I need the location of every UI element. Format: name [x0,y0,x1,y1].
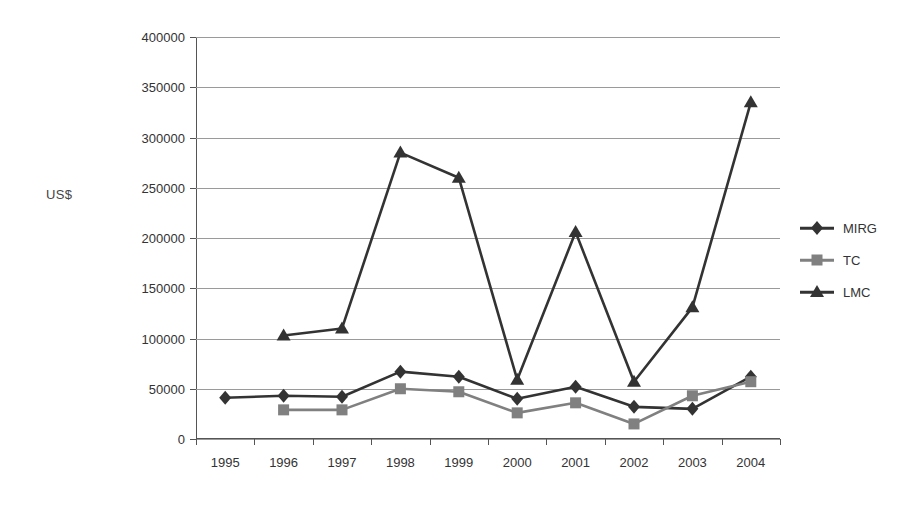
x-tick-mark [722,439,723,445]
triangle-marker [335,321,349,333]
triangle-marker [510,373,524,385]
series-lmc [277,95,758,386]
square-icon [800,253,834,267]
triangle-marker [810,285,824,297]
chart-container: US$ 050000100000150000200000250000300000… [0,0,924,508]
diamond-marker [511,392,523,406]
x-tick-label: 1998 [386,455,415,470]
y-tick-label: 300000 [142,130,185,145]
square-marker [687,390,698,401]
legend: MIRGTCLMC [800,212,877,308]
x-tick-mark [605,439,606,445]
x-tick-label: 1996 [269,455,298,470]
triangle-marker [393,146,407,158]
square-marker [453,386,464,397]
x-tick-mark [663,439,664,445]
plot-area: 0500001000001500002000002500003000003500… [196,37,780,439]
square-marker [512,407,523,418]
x-tick-label: 2003 [678,455,707,470]
x-tick-label: 2004 [736,455,765,470]
diamond-marker [336,390,348,404]
x-tick-mark [430,439,431,445]
x-tick-mark [546,439,547,445]
diamond-marker [628,400,640,414]
triangle-marker [685,300,699,312]
legend-item-tc[interactable]: TC [800,244,877,276]
x-tick-label: 2002 [620,455,649,470]
diamond-marker [219,391,231,405]
legend-label: TC [843,253,860,268]
x-tick-mark [196,439,197,445]
legend-label: LMC [843,285,870,300]
diamond-marker [278,389,290,403]
x-tick-mark [254,439,255,445]
series-mirg [219,365,757,416]
square-marker [278,404,289,415]
legend-item-mirg[interactable]: MIRG [800,212,877,244]
diamond-marker [394,365,406,379]
triangle-marker [744,95,758,107]
x-tick-mark [488,439,489,445]
legend-label: MIRG [843,221,877,236]
legend-item-lmc[interactable]: LMC [800,276,877,308]
diamond-marker [453,370,465,384]
triangle-icon [800,285,834,299]
square-marker [745,376,756,387]
series-line [284,102,751,381]
series-layer [196,37,780,439]
triangle-marker [569,225,583,237]
x-tick-label: 1995 [211,455,240,470]
y-tick-label: 250000 [142,180,185,195]
x-tick-label: 2001 [561,455,590,470]
y-tick-label: 100000 [142,331,185,346]
y-tick-label: 0 [178,432,185,447]
x-tick-mark [371,439,372,445]
x-tick-label: 1999 [444,455,473,470]
square-marker [395,383,406,394]
square-marker [629,418,640,429]
y-axis-title: US$ [46,187,72,202]
y-tick-label: 350000 [142,80,185,95]
square-marker [337,404,348,415]
square-marker [812,255,823,266]
diamond-icon [800,221,834,235]
y-tick-label: 400000 [142,30,185,45]
y-tick-label: 150000 [142,281,185,296]
x-tick-mark [313,439,314,445]
diamond-marker [686,402,698,416]
diamond-marker [811,221,823,235]
x-tick-label: 2000 [503,455,532,470]
x-tick-label: 1997 [328,455,357,470]
square-marker [570,397,581,408]
y-tick-label: 50000 [149,381,185,396]
x-tick-mark [780,439,781,445]
y-tick-label: 200000 [142,231,185,246]
diamond-marker [570,380,582,394]
